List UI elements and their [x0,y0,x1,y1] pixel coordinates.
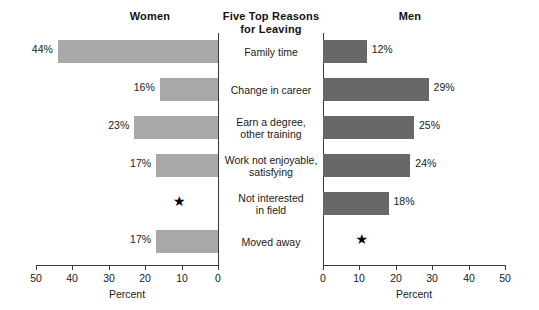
bar-women [156,154,218,177]
axis-tick-women [145,265,146,270]
bar-women [58,40,218,63]
column-heading-men: Men [355,10,465,23]
bar-value-label-men: 24% [415,157,436,170]
bar-row-women: 17% [36,147,218,185]
butterfly-bar-chart: Women Five Top Reasons for Leaving Men 4… [0,0,539,310]
bar-row-men: 18% [323,185,505,223]
bar-value-label-women: 44% [32,43,53,56]
category-label: Not interestedin field [219,185,323,223]
axis-scale-women [36,265,219,266]
bar-women [160,78,218,101]
bar-men [323,40,367,63]
bar-row-women: 16% [36,71,218,109]
plot-area-women: 44%16%23%17%★17% [36,33,218,265]
category-label-line: other training [236,128,305,141]
axis-tick-label-men: 50 [490,272,520,285]
bar-row-women: 23% [36,109,218,147]
axis-title-women: Percent [67,288,187,301]
category-label-line: Moved away [242,236,301,249]
bar-row-men: ★ [323,223,505,261]
suppressed-value-marker-men: ★ [355,232,368,246]
bar-value-label-men: 18% [394,195,415,208]
suppressed-value-marker-women: ★ [173,194,186,208]
bar-women [134,116,218,139]
axis-tick-label-men: 20 [381,272,411,285]
axis-tick-label-women: 50 [21,272,51,285]
category-label-line: Family time [244,46,298,59]
category-label: Work not enjoyable,satisfying [219,147,323,185]
bar-value-label-women: 16% [134,81,155,94]
category-label-line: Change in career [231,84,312,97]
axis-title-men: Percent [354,288,474,301]
category-label-line: satisfying [225,166,318,179]
axis-tick-label-men: 10 [344,272,374,285]
axis-tick-label-women: 20 [130,272,160,285]
axis-scale-men [323,265,506,266]
bar-row-women: 17% [36,223,218,261]
category-label-line: Earn a degree, [236,116,305,129]
bar-row-men: 29% [323,71,505,109]
bar-value-label-women: 17% [130,233,151,246]
bar-value-label-men: 12% [372,43,393,56]
category-label-line: Not interested [238,192,303,205]
axis-tick-label-women: 10 [167,272,197,285]
axis-tick-label-women: 0 [203,272,233,285]
axis-tick-women [109,265,110,270]
bar-row-men: 12% [323,33,505,71]
bar-women [156,230,218,253]
axis-tick-label-men: 40 [454,272,484,285]
axis-tick-women [182,265,183,270]
category-label: Change in career [219,71,323,109]
bar-value-label-men: 25% [419,119,440,132]
category-label: Earn a degree,other training [219,109,323,147]
axis-tick-women [36,265,37,270]
column-heading-women: Women [95,10,205,23]
axis-tick-men [396,265,397,270]
axis-tick-men [432,265,433,270]
axis-tick-label-women: 40 [57,272,87,285]
axis-tick-men [359,265,360,270]
bar-men [323,116,414,139]
axis-tick-men [469,265,470,270]
axis-tick-label-men: 0 [308,272,338,285]
axis-tick-women [218,265,219,270]
axis-tick-label-men: 30 [417,272,447,285]
plot-area-men: 12%29%25%24%18%★ [323,33,505,265]
bar-row-women: 44% [36,33,218,71]
bar-value-label-women: 23% [108,119,129,132]
chart-title-line1: Five Top Reasons [215,10,327,23]
category-label-column: Family timeChange in careerEarn a degree… [219,33,323,265]
axis-tick-women [72,265,73,270]
category-label-line: in field [238,204,303,217]
axis-tick-label-women: 30 [94,272,124,285]
bar-value-label-women: 17% [130,157,151,170]
bar-row-men: 24% [323,147,505,185]
bar-men [323,192,389,215]
category-label: Moved away [219,223,323,261]
bar-row-women: ★ [36,185,218,223]
bar-men [323,154,410,177]
bar-row-men: 25% [323,109,505,147]
bar-value-label-men: 29% [434,81,455,94]
axis-tick-men [505,265,506,270]
category-label: Family time [219,33,323,71]
bar-men [323,78,429,101]
axis-tick-men [323,265,324,270]
category-label-line: Work not enjoyable, [225,154,318,167]
